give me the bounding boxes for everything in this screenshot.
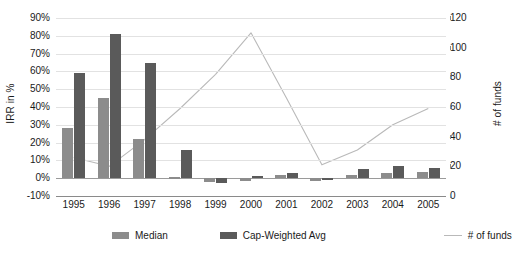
bar — [204, 178, 215, 182]
bar — [145, 63, 156, 179]
bar — [275, 175, 286, 179]
bar — [62, 128, 73, 178]
x-axis-tick-label: 2003 — [340, 199, 375, 210]
y-axis-right-tick-mark — [450, 16, 451, 20]
y-axis-right-tick-label: 20 — [450, 161, 490, 171]
legend-color-swatch — [112, 232, 129, 239]
y-axis-left-tick-label: -10% — [10, 191, 50, 201]
y-axis-left-tick-label: 10% — [10, 155, 50, 165]
plot-area — [56, 18, 446, 196]
x-axis-tick-label: 2002 — [304, 199, 339, 210]
bar — [358, 169, 369, 178]
y-axis-right-tick-label: 40 — [450, 132, 490, 142]
bar — [310, 178, 321, 181]
x-axis-tick-label: 2001 — [269, 199, 304, 210]
x-axis-tick-label: 1996 — [91, 199, 126, 210]
x-axis-tick-label: 2004 — [375, 199, 410, 210]
x-axis-tick-label: 2005 — [411, 199, 446, 210]
y-axis-right-tick-label: 0 — [450, 191, 490, 201]
bar — [287, 173, 298, 178]
bar — [429, 168, 440, 179]
x-axis-line — [56, 196, 446, 197]
x-axis-tick-label: 1999 — [198, 199, 233, 210]
x-axis-tick-label: 1998 — [162, 199, 197, 210]
zero-baseline — [56, 178, 446, 179]
gridline — [56, 18, 446, 19]
y-axis-left-tick-label: 70% — [10, 49, 50, 59]
legend-line-swatch — [444, 235, 462, 236]
x-axis-tick-label: 1997 — [127, 199, 162, 210]
y-axis-right-tick-mark — [450, 75, 451, 79]
y-axis-right-tick-label: 60 — [450, 102, 490, 112]
bar — [240, 178, 251, 181]
bar — [169, 177, 180, 179]
legend-label: Cap-Weighted Avg — [243, 230, 326, 241]
y-axis-left-ticks: 90%80%70%60%50%40%30%20%10%0%-10% — [10, 0, 50, 258]
legend-item[interactable]: Median — [112, 230, 168, 241]
bar — [181, 150, 192, 178]
bar — [322, 178, 333, 180]
bar — [381, 173, 392, 178]
bar — [133, 139, 144, 178]
legend-label: # of funds — [468, 230, 512, 241]
bar — [74, 73, 85, 178]
y-axis-left-tick-label: 20% — [10, 138, 50, 148]
y-axis-left-tick-label: 90% — [10, 13, 50, 23]
bar — [252, 176, 263, 178]
y-axis-left-tick-label: 0% — [10, 173, 50, 183]
bar — [346, 175, 357, 179]
y-axis-left-tick-label: 40% — [10, 102, 50, 112]
chart-legend: MedianCap-Weighted Avg# of funds — [112, 228, 512, 242]
x-axis-tick-label: 1995 — [56, 199, 91, 210]
legend-item[interactable]: # of funds — [444, 230, 512, 241]
y-axis-right-tick-label: 120 — [450, 13, 490, 23]
y-axis-right-tick-mark — [450, 164, 451, 168]
bar — [110, 34, 121, 178]
bar — [98, 98, 109, 178]
legend-color-swatch — [220, 232, 237, 239]
y-axis-right-tick-label: 80 — [450, 72, 490, 82]
legend-label: Median — [135, 230, 168, 241]
x-axis-tick-label: 2000 — [233, 199, 268, 210]
bar — [393, 166, 404, 178]
x-axis-labels: 1995199619971998199920002001200220032004… — [56, 199, 446, 213]
y-axis-right-tick-mark — [450, 135, 451, 139]
y-axis-right-tick-label: 100 — [450, 43, 490, 53]
y-axis-left-tick-label: 60% — [10, 66, 50, 76]
bar — [216, 178, 227, 182]
y-axis-left-tick-label: 30% — [10, 120, 50, 130]
y-axis-right-tick-mark — [450, 46, 451, 50]
y-axis-left-tick-label: 50% — [10, 84, 50, 94]
legend-item[interactable]: Cap-Weighted Avg — [220, 230, 326, 241]
y-axis-right-tick-mark — [450, 105, 451, 109]
y-axis-left-tick-label: 80% — [10, 31, 50, 41]
y-axis-right-ticks: 120100806040200 — [450, 0, 495, 258]
bar — [417, 172, 428, 178]
y-axis-right-tick-mark — [450, 194, 451, 198]
